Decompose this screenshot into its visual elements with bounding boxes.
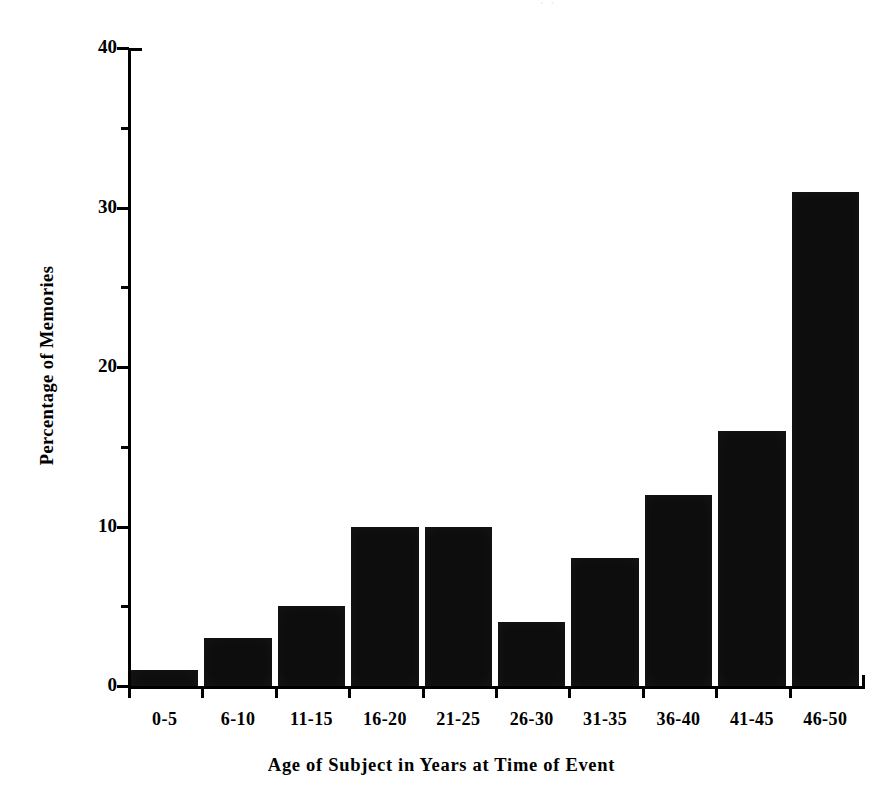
bar: [792, 192, 859, 686]
bar: [278, 606, 345, 686]
x-tick: [495, 686, 498, 698]
x-tick: [128, 686, 131, 698]
x-tick-label: 36-40: [642, 709, 715, 730]
x-tick: [642, 686, 645, 698]
y-tick-major: [117, 47, 129, 50]
bar: [425, 527, 492, 687]
bar: [645, 495, 712, 686]
bar: [718, 431, 785, 686]
y-tick-label: 40: [57, 37, 117, 56]
bar-chart-figure: · · Percentage of Memories 010203040 0-5…: [0, 0, 883, 788]
x-tick-label: 6-10: [201, 709, 274, 730]
x-tick-label: 31-35: [568, 709, 641, 730]
y-tick-label: 10: [57, 516, 117, 535]
x-axis-title: Age of Subject in Years at Time of Event: [0, 755, 883, 776]
bar: [131, 670, 198, 686]
x-tick-label: 0-5: [128, 709, 201, 730]
y-tick-label: 30: [57, 197, 117, 216]
x-tick: [201, 686, 204, 698]
x-tick: [422, 686, 425, 698]
bar: [571, 558, 638, 686]
y-tick-major: [117, 366, 129, 369]
y-axis-top-cap: [128, 48, 142, 51]
x-tick-label: 26-30: [495, 709, 568, 730]
x-tick-label: 11-15: [275, 709, 348, 730]
plot-area: 010203040 0-56-1011-1516-2021-2526-3031-…: [128, 48, 862, 686]
y-tick-minor: [121, 286, 129, 289]
y-axis-title: Percentage of Memories: [37, 216, 58, 516]
y-tick-major: [117, 207, 129, 210]
y-tick-minor: [121, 446, 129, 449]
page-edge-artifact: · ·: [540, 0, 750, 8]
x-tick: [275, 686, 278, 698]
bar: [204, 638, 271, 686]
x-tick-label: 16-20: [348, 709, 421, 730]
x-tick: [348, 686, 351, 698]
x-tick-label: 46-50: [789, 709, 862, 730]
bar: [498, 622, 565, 686]
y-tick-minor: [121, 127, 129, 130]
x-tick-label: 21-25: [422, 709, 495, 730]
bar: [351, 527, 418, 687]
y-tick-label: 20: [57, 356, 117, 375]
x-tick: [789, 686, 792, 698]
x-tick: [568, 686, 571, 698]
y-tick-label: 0: [57, 675, 117, 694]
x-axis-end-cap: [862, 675, 865, 689]
y-tick-minor: [121, 605, 129, 608]
x-tick: [715, 686, 718, 698]
y-tick-major: [117, 526, 129, 529]
x-tick-label: 41-45: [715, 709, 788, 730]
